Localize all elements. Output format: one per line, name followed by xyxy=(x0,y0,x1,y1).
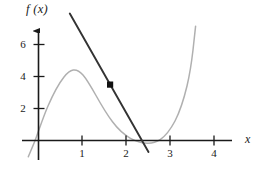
tangent-point-marker xyxy=(107,82,113,88)
y-axis-label: f (x) xyxy=(26,2,48,17)
y-tick-label-6: 6 xyxy=(17,38,29,50)
x-tick-label-2: 2 xyxy=(120,147,132,159)
y-tick-label-2: 2 xyxy=(17,102,29,114)
function-graph-plot xyxy=(0,0,262,170)
x-tick-label-4: 4 xyxy=(208,147,220,159)
y-tick-label-4: 4 xyxy=(17,70,29,82)
x-axis-label: x xyxy=(245,132,251,147)
figure-container: f (x) x 1 2 3 4 2 4 6 xyxy=(0,0,262,170)
x-tick-label-1: 1 xyxy=(76,147,88,159)
x-tick-label-3: 3 xyxy=(164,147,176,159)
